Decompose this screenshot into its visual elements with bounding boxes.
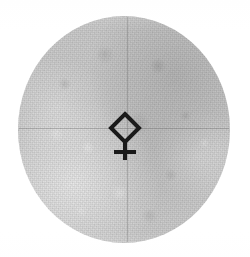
pallas-symbol bbox=[106, 110, 144, 162]
pallas-rhombus-icon bbox=[111, 114, 139, 142]
figure-root: Pallas Pallas bbox=[0, 0, 250, 257]
